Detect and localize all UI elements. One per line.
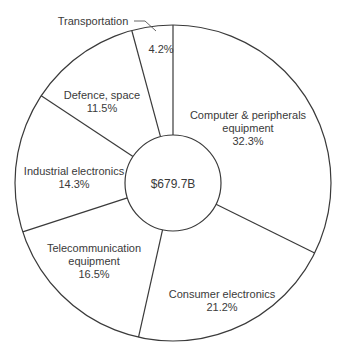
slice-label-defence-pct: 11.5% — [64, 102, 140, 115]
slice-label-industrial-pct: 14.3% — [24, 178, 124, 191]
slice-label-consumer: Consumer electronics 21.2% — [169, 288, 275, 314]
center-total-text: $679.7B — [151, 178, 196, 191]
slice-divider — [216, 204, 315, 253]
slice-label-computer-line1: Computer & peripherals — [190, 109, 306, 122]
slice-label-transport-pct: 4.2% — [148, 43, 173, 56]
slice-label-transport-name: Transportation — [58, 15, 129, 28]
slice-divider — [139, 230, 163, 337]
slice-label-computer-pct: 32.3% — [190, 135, 306, 148]
slice-label-industrial: Industrial electronics 14.3% — [24, 165, 124, 191]
slice-label-computer-line2: equipment — [190, 122, 306, 135]
slice-label-industrial-line1: Industrial electronics — [24, 165, 124, 178]
slice-label-defence-line1: Defence, space — [64, 89, 140, 102]
slice-label-defence: Defence, space 11.5% — [64, 89, 140, 115]
slice-label-consumer-pct: 21.2% — [169, 301, 275, 314]
slice-label-telecom: Telecommunication equipment 16.5% — [47, 242, 141, 281]
slice-label-telecom-pct: 16.5% — [47, 268, 141, 281]
slice-label-computer: Computer & peripherals equipment 32.3% — [190, 109, 306, 148]
slice-label-transport-pct-text: 4.2% — [148, 43, 173, 56]
slice-label-telecom-line2: equipment — [47, 255, 141, 268]
slice-label-consumer-line1: Consumer electronics — [169, 288, 275, 301]
slice-divider — [23, 198, 128, 232]
center-total-label: $679.7B — [151, 178, 196, 191]
slice-label-telecom-line1: Telecommunication — [47, 242, 141, 255]
slice-label-transport-name-text: Transportation — [58, 15, 129, 28]
